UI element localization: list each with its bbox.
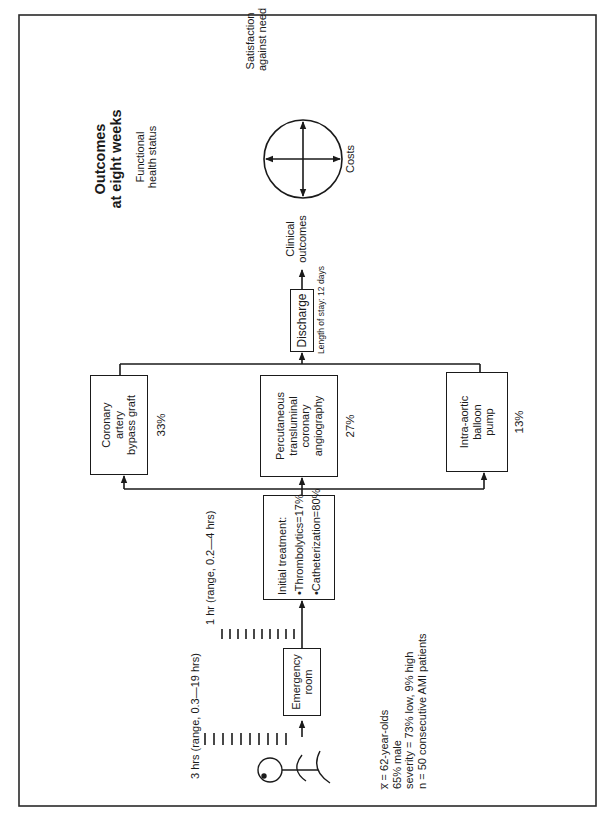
arrival-to-er-time: 3 hrs (range, 0.3—19 hrs) — [189, 653, 201, 779]
satisfaction-line-2: against need — [256, 11, 268, 71]
clinical-line-1: Clinical — [284, 211, 296, 267]
emergency-room-box: Emergency room — [283, 648, 321, 716]
clinical-line-2: outcomes — [296, 211, 308, 267]
procedure-box-cabg: Coronary artery bypass graft — [90, 375, 148, 475]
ptca-percent: 27% — [344, 406, 356, 446]
demographic-sex: 65% male — [391, 633, 404, 789]
demographic-n: n = 50 consecutive AMI patients — [416, 633, 429, 789]
clinical-outcomes-label: Clinical outcomes — [284, 211, 308, 267]
satisfaction-line-1: Satisfaction — [244, 11, 256, 71]
discharge-box: Discharge — [290, 289, 314, 352]
title-line-1: Outcomes — [92, 103, 108, 215]
four-way-arrow-circle-icon — [264, 120, 342, 198]
demographic-age: x̅ = 62-year-olds — [378, 633, 391, 789]
time-dashes-2 — [222, 629, 294, 639]
demographics-block: x̅ = 62-year-olds 65% male severity = 73… — [378, 633, 428, 789]
outcomes-title: Outcomes at eight weeks — [92, 103, 124, 215]
ptca-line-3: coronary — [299, 392, 312, 460]
demographic-severity: severity = 73% low, 9% high — [403, 633, 416, 789]
cabg-line-2: artery — [113, 395, 126, 455]
er-to-treatment-time: 1 hr (range, 0.2—4 hrs) — [204, 511, 216, 625]
iabp-line-3: pump — [483, 396, 496, 449]
initial-treatment-box: Initial treatment: •Thrombolytics=17% •C… — [263, 495, 335, 600]
cabg-line-3: bypass graft — [125, 395, 138, 455]
iabp-line-2: balloon — [471, 396, 484, 449]
procedure-box-iabp: Intra-aortic balloon pump — [446, 372, 508, 472]
er-line-2: room — [302, 654, 315, 710]
title-line-2: at eight weeks — [108, 103, 124, 215]
functional-line-2: health status — [146, 121, 158, 193]
ptca-line-4: angiography — [312, 392, 325, 460]
discharge-label: Discharge — [296, 293, 309, 347]
costs-label: Costs — [344, 141, 356, 177]
length-of-stay: Length of stay: 12 days — [316, 266, 326, 354]
rotated-diagram-canvas: Outcomes at eight weeks 3 hrs (range, 0.… — [0, 0, 606, 813]
ptca-line-1: Percutaneous — [274, 392, 287, 460]
thrombolytics-item: •Thrombolytics=17% — [291, 489, 308, 595]
er-line-1: Emergency — [290, 654, 303, 710]
time-dashes-1 — [205, 733, 286, 745]
satisfaction-label: Satisfaction against need — [244, 11, 268, 71]
ptca-line-2: transluminal — [287, 392, 300, 460]
stick-figure-patient-icon — [258, 751, 330, 783]
functional-health-label: Functional health status — [134, 121, 158, 193]
iabp-percent: 13% — [513, 402, 525, 442]
cabg-line-1: Coronary — [100, 395, 113, 455]
functional-line-1: Functional — [134, 121, 146, 193]
iabp-line-1: Intra-aortic — [458, 396, 471, 449]
catheterization-item: •Catheterization=80% — [308, 489, 325, 595]
cabg-percent: 33% — [155, 405, 167, 445]
procedure-box-ptca: Percutaneous transluminal coronary angio… — [260, 375, 338, 477]
initial-treatment-heading: Initial treatment: — [274, 489, 291, 595]
